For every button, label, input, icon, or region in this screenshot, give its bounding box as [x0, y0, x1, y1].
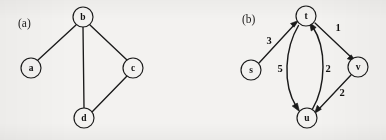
panel-a-group: (a) a b c d	[18, 7, 143, 128]
node-a: a	[21, 58, 41, 78]
node-v-label: v	[356, 62, 361, 72]
edge-s-to-t: 3	[259, 21, 299, 64]
node-s: s	[241, 60, 261, 80]
edge-weight-s-t: 3	[266, 35, 271, 46]
node-t: t	[296, 6, 316, 26]
edge-weight-t-v: 1	[335, 22, 340, 33]
node-b-label: b	[80, 12, 85, 22]
panel-a-label: (a)	[18, 17, 31, 30]
edge-u-to-t-curve	[313, 27, 324, 110]
node-u-label: u	[304, 113, 310, 123]
panel-b-group: (b) 3 1 2 5	[241, 6, 368, 128]
edge-weight-v-u: 2	[339, 87, 344, 98]
edge-t-to-v: 1	[315, 22, 356, 61]
edge-c-d	[92, 76, 127, 112]
node-a-label: a	[29, 63, 34, 73]
node-u: u	[297, 108, 317, 128]
node-d: d	[74, 108, 94, 128]
edge-t-to-u-curve	[287, 26, 299, 108]
node-v: v	[348, 57, 368, 77]
node-c: c	[123, 58, 143, 78]
node-c-label: c	[131, 63, 135, 73]
arrowhead-t-to-u	[292, 103, 299, 111]
node-d-label: d	[81, 113, 87, 123]
edge-v-to-u: 2	[315, 75, 352, 114]
edge-weight-t-u: 5	[277, 63, 282, 74]
edge-weight-u-t: 2	[325, 63, 330, 74]
node-b: b	[73, 7, 93, 27]
edge-b-a	[38, 25, 76, 60]
panel-b-label: (b)	[242, 13, 256, 26]
edge-t-to-v-line	[315, 23, 352, 58]
edge-b-d	[83, 27, 84, 108]
graph-figure-svg: (a) a b c d	[0, 0, 386, 140]
figure-canvas: (a) a b c d	[0, 0, 386, 140]
edge-s-to-t-line	[259, 24, 295, 63]
edge-t-to-u: 5	[277, 26, 299, 112]
edge-v-to-u-line	[318, 75, 351, 110]
edge-b-c	[90, 25, 127, 60]
node-s-label: s	[249, 65, 253, 75]
